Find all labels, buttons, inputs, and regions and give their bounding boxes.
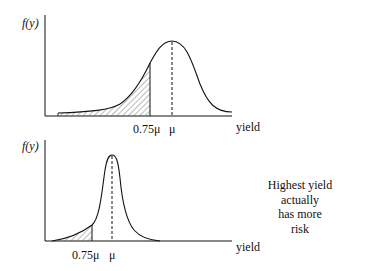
top-tick-075mu: 0.75μ — [133, 122, 160, 136]
bottom-x-label: yield — [236, 240, 260, 254]
annotation-line: has more — [255, 207, 345, 222]
top-tick-mu: μ — [169, 122, 175, 136]
bottom-y-label: f(y) — [22, 139, 39, 153]
annotation-note: Highest yield actually has more risk — [255, 178, 345, 236]
bottom-density-curve — [52, 155, 160, 241]
annotation-line: risk — [255, 222, 345, 237]
top-y-label: f(y) — [22, 16, 39, 30]
bottom-chart: f(y) yield 0.75μ μ — [22, 139, 260, 262]
bottom-shaded-area — [52, 225, 92, 241]
bottom-tick-mu: μ — [109, 248, 115, 262]
top-x-label: yield — [236, 120, 260, 134]
top-chart: f(y) yield 0.75μ μ — [22, 15, 260, 136]
top-shaded-area — [58, 63, 150, 116]
annotation-line: actually — [255, 193, 345, 208]
annotation-line: Highest yield — [255, 178, 345, 193]
bottom-tick-075mu: 0.75μ — [72, 248, 99, 262]
